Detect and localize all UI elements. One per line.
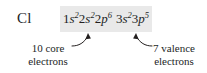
- core-electrons-line1: 10 core: [21, 42, 75, 55]
- valence-electrons-line2: electrons: [146, 55, 202, 68]
- valence-electrons-annotation: 7 valence electrons: [146, 42, 202, 67]
- valence-arrowhead-icon: [133, 33, 139, 39]
- core-electrons-line2: electrons: [21, 55, 75, 68]
- core-electrons-annotation: 10 core electrons: [21, 42, 75, 67]
- core-arrowhead-icon: [85, 33, 91, 39]
- valence-electrons-line1: 7 valence: [146, 42, 202, 55]
- electron-configuration-figure: Cl 1s22s22p63s23p5 10 core electrons 7 v…: [0, 0, 207, 73]
